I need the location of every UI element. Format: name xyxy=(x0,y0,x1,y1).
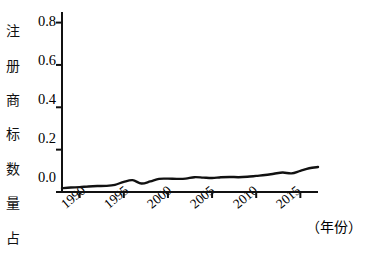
data-line-series xyxy=(62,167,318,188)
chart-figure: 注 册 商 标 数 量 占 比 （ % ） 0.8 0.6 0.4 0.2 0.… xyxy=(0,0,380,254)
plot-area xyxy=(0,0,380,254)
